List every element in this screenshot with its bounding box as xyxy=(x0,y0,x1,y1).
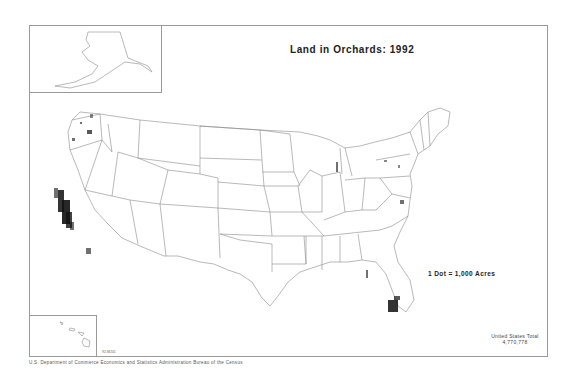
map-legend: 1 Dot = 1,000 Acres xyxy=(428,270,495,277)
map-title: Land in Orchards: 1992 xyxy=(290,44,414,55)
credit-line: U.S. Department of Commerce Economics an… xyxy=(29,360,243,365)
map-code: 92-M201 xyxy=(102,350,116,354)
state-boundaries xyxy=(55,32,450,347)
us-total: United States Total 4,770,778 xyxy=(480,333,550,345)
us-dot-map xyxy=(0,0,574,384)
orchard-dots xyxy=(54,114,404,312)
us-total-value: 4,770,778 xyxy=(480,339,550,345)
